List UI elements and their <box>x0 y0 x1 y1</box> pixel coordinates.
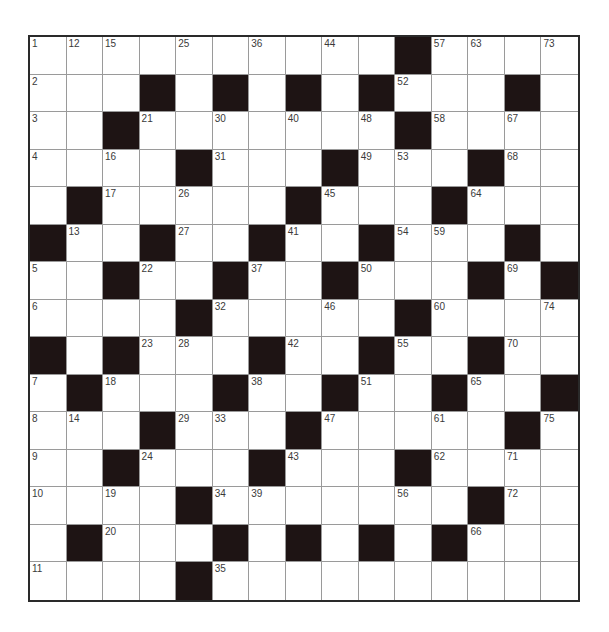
grid-cell[interactable] <box>395 375 432 413</box>
grid-cell[interactable]: 71 <box>505 450 542 488</box>
grid-cell[interactable]: 1 <box>30 37 67 75</box>
grid-cell[interactable] <box>359 450 396 488</box>
grid-cell[interactable]: 62 <box>432 450 469 488</box>
grid-cell[interactable]: 60 <box>432 300 469 338</box>
grid-cell[interactable] <box>140 525 177 563</box>
grid-cell[interactable]: 19 <box>103 487 140 525</box>
grid-cell[interactable]: 4 <box>30 150 67 188</box>
grid-cell[interactable] <box>322 487 359 525</box>
grid-cell[interactable]: 14 <box>67 412 104 450</box>
grid-cell[interactable] <box>213 37 250 75</box>
grid-cell[interactable] <box>541 487 578 525</box>
grid-cell[interactable] <box>505 525 542 563</box>
grid-cell[interactable]: 52 <box>395 75 432 113</box>
grid-cell[interactable] <box>249 562 286 600</box>
grid-cell[interactable]: 35 <box>213 562 250 600</box>
grid-cell[interactable]: 51 <box>359 375 396 413</box>
grid-cell[interactable]: 58 <box>432 112 469 150</box>
grid-cell[interactable]: 50 <box>359 262 396 300</box>
grid-cell[interactable]: 11 <box>30 562 67 600</box>
grid-cell[interactable] <box>468 562 505 600</box>
grid-cell[interactable] <box>67 262 104 300</box>
grid-cell[interactable]: 17 <box>103 187 140 225</box>
grid-cell[interactable]: 9 <box>30 450 67 488</box>
grid-cell[interactable] <box>395 525 432 563</box>
grid-cell[interactable] <box>468 225 505 263</box>
grid-cell[interactable]: 55 <box>395 337 432 375</box>
grid-cell[interactable]: 66 <box>468 525 505 563</box>
grid-cell[interactable]: 33 <box>213 412 250 450</box>
grid-cell[interactable]: 57 <box>432 37 469 75</box>
grid-cell[interactable] <box>541 562 578 600</box>
grid-cell[interactable] <box>505 37 542 75</box>
grid-cell[interactable]: 36 <box>249 37 286 75</box>
grid-cell[interactable]: 34 <box>213 487 250 525</box>
grid-cell[interactable]: 15 <box>103 37 140 75</box>
grid-cell[interactable]: 39 <box>249 487 286 525</box>
grid-cell[interactable]: 38 <box>249 375 286 413</box>
grid-cell[interactable]: 56 <box>395 487 432 525</box>
grid-cell[interactable]: 68 <box>505 150 542 188</box>
grid-cell[interactable] <box>541 187 578 225</box>
grid-cell[interactable] <box>468 412 505 450</box>
grid-cell[interactable] <box>359 412 396 450</box>
grid-cell[interactable]: 25 <box>176 37 213 75</box>
grid-cell[interactable]: 47 <box>322 412 359 450</box>
grid-cell[interactable] <box>30 187 67 225</box>
grid-cell[interactable] <box>103 300 140 338</box>
grid-cell[interactable] <box>213 187 250 225</box>
grid-cell[interactable] <box>322 562 359 600</box>
grid-cell[interactable] <box>359 37 396 75</box>
grid-cell[interactable] <box>505 375 542 413</box>
grid-cell[interactable]: 49 <box>359 150 396 188</box>
grid-cell[interactable] <box>103 412 140 450</box>
grid-cell[interactable] <box>432 562 469 600</box>
grid-cell[interactable]: 16 <box>103 150 140 188</box>
grid-cell[interactable]: 63 <box>468 37 505 75</box>
grid-cell[interactable] <box>541 75 578 113</box>
grid-cell[interactable] <box>140 487 177 525</box>
grid-cell[interactable] <box>505 562 542 600</box>
grid-cell[interactable] <box>140 150 177 188</box>
grid-cell[interactable]: 12 <box>67 37 104 75</box>
grid-cell[interactable]: 43 <box>286 450 323 488</box>
grid-cell[interactable] <box>249 412 286 450</box>
grid-cell[interactable] <box>213 450 250 488</box>
grid-cell[interactable] <box>176 262 213 300</box>
grid-cell[interactable] <box>213 225 250 263</box>
grid-cell[interactable]: 29 <box>176 412 213 450</box>
grid-cell[interactable] <box>67 300 104 338</box>
grid-cell[interactable] <box>140 187 177 225</box>
grid-cell[interactable]: 59 <box>432 225 469 263</box>
grid-cell[interactable]: 74 <box>541 300 578 338</box>
grid-cell[interactable] <box>213 337 250 375</box>
grid-cell[interactable] <box>322 450 359 488</box>
grid-cell[interactable] <box>286 487 323 525</box>
grid-cell[interactable] <box>432 262 469 300</box>
grid-cell[interactable] <box>249 112 286 150</box>
grid-cell[interactable] <box>468 112 505 150</box>
grid-cell[interactable]: 32 <box>213 300 250 338</box>
grid-cell[interactable]: 10 <box>30 487 67 525</box>
grid-cell[interactable]: 24 <box>140 450 177 488</box>
grid-cell[interactable] <box>249 75 286 113</box>
grid-cell[interactable]: 42 <box>286 337 323 375</box>
grid-cell[interactable]: 22 <box>140 262 177 300</box>
grid-cell[interactable]: 53 <box>395 150 432 188</box>
grid-cell[interactable] <box>541 337 578 375</box>
grid-cell[interactable]: 41 <box>286 225 323 263</box>
grid-cell[interactable] <box>249 525 286 563</box>
grid-cell[interactable] <box>176 450 213 488</box>
grid-cell[interactable] <box>322 225 359 263</box>
grid-cell[interactable] <box>505 187 542 225</box>
grid-cell[interactable] <box>176 75 213 113</box>
grid-cell[interactable] <box>67 337 104 375</box>
grid-cell[interactable] <box>103 225 140 263</box>
grid-cell[interactable] <box>432 487 469 525</box>
grid-cell[interactable]: 8 <box>30 412 67 450</box>
grid-cell[interactable]: 69 <box>505 262 542 300</box>
grid-cell[interactable] <box>140 37 177 75</box>
grid-cell[interactable]: 31 <box>213 150 250 188</box>
grid-cell[interactable] <box>286 262 323 300</box>
grid-cell[interactable] <box>176 375 213 413</box>
